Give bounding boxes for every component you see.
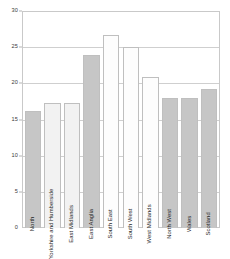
bar-category-label: South East xyxy=(105,209,111,238)
bar-category-label: East Midlands xyxy=(66,205,72,243)
bar-category-label-text: East Anglia xyxy=(89,209,95,239)
bar: South East xyxy=(103,35,119,228)
bar-category-label: South West xyxy=(125,209,131,240)
y-axis-tick-label: 5 xyxy=(15,189,18,195)
y-axis-tick-label: 20 xyxy=(12,81,18,87)
y-axis-tick-label: 15 xyxy=(12,117,18,123)
y-axis-tick-label: 0 xyxy=(15,225,18,231)
bar: West Midlands xyxy=(142,77,158,228)
bar: North West xyxy=(162,98,178,228)
y-axis-tick-label: 30 xyxy=(12,8,18,14)
bar-category-label-text: Yorkshire and Humberside xyxy=(49,189,55,259)
bar: East Midlands xyxy=(64,103,80,228)
bar-category-label-text: South East xyxy=(108,209,114,238)
bar: South West xyxy=(123,47,139,228)
bar-category-label: North xyxy=(27,217,33,232)
bars-layer: NorthYorkshire and HumbersideEast Midlan… xyxy=(23,12,219,228)
bar-category-label-text: North xyxy=(30,217,36,232)
bar: North xyxy=(25,111,41,228)
bar-category-label: East Anglia xyxy=(86,209,92,239)
bar-category-label-text: East Midlands xyxy=(69,205,75,243)
bar-category-label: West Midlands xyxy=(144,204,150,243)
bar: East Anglia xyxy=(83,55,99,228)
bar-category-label: North West xyxy=(164,209,170,239)
bar-category-label-text: North West xyxy=(167,209,173,239)
bar-category-label-text: Scotland xyxy=(206,212,212,235)
bar: Wales xyxy=(181,98,197,228)
y-axis-tick-label: 10 xyxy=(12,153,18,159)
bar: Yorkshire and Humberside xyxy=(44,103,60,228)
bar: Scotland xyxy=(201,89,217,228)
bar-category-label: Yorkshire and Humberside xyxy=(46,189,52,259)
y-axis: 051015202530 xyxy=(0,0,22,241)
bar-category-label: Wales xyxy=(184,216,190,232)
bar-category-label: Scotland xyxy=(203,212,209,235)
bar-category-label-text: Wales xyxy=(187,216,193,232)
bar-category-label-text: West Midlands xyxy=(147,204,153,243)
y-axis-tick-label: 25 xyxy=(12,44,18,50)
bar-category-label-text: South West xyxy=(128,209,134,240)
